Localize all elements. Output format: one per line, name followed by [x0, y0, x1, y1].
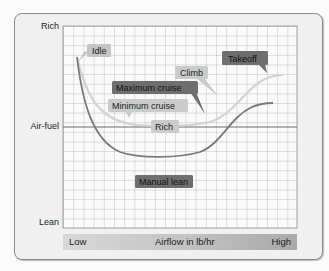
tag-idle: Idle — [87, 44, 111, 57]
svg-text:Maximum cruise: Maximum cruise — [116, 83, 182, 93]
tag-manual-lean: Manual lean — [135, 175, 193, 188]
tag-minimum-cruise: Minimum cruise — [108, 99, 188, 112]
svg-text:Climb: Climb — [180, 68, 203, 78]
tag-climb: Climb — [175, 66, 208, 79]
x-label-high: High — [271, 236, 291, 247]
tag-maximum-cruise: Maximum cruise — [112, 81, 198, 94]
svg-text:Manual lean: Manual lean — [139, 177, 188, 187]
svg-text:Rich: Rich — [155, 122, 173, 132]
svg-text:Minimum cruise: Minimum cruise — [112, 101, 175, 111]
x-axis-bar: Low Airflow in lb/hr High — [63, 234, 297, 250]
svg-text:Idle: Idle — [92, 46, 107, 56]
x-label-low: Low — [69, 236, 86, 247]
tag-takeoff: Takeoff — [222, 51, 268, 65]
svg-text:Takeoff: Takeoff — [228, 54, 257, 64]
mixture-chart: Idle Maximum cruise Minimum cruise Rich … — [0, 0, 329, 271]
x-axis-title: Airflow in lb/hr — [155, 236, 215, 247]
tag-rich: Rich — [151, 120, 179, 133]
